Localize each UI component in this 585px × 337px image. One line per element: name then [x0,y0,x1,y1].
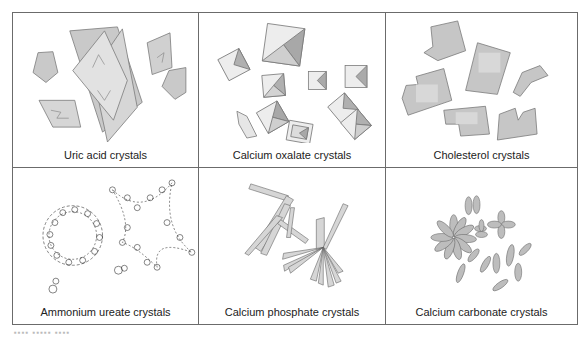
cholesterol-crystals-illustration [386,13,577,143]
caption-calcium-carbonate: Calcium carbonate crystals [386,306,577,318]
panel-uric-acid: Uric acid crystals [13,13,199,168]
ammonium-ureate-crystals-illustration [13,168,198,300]
caption-calcium-oxalate: Calcium oxalate crystals [199,149,385,161]
crystal-figure-grid: Uric acid crystals [12,12,578,325]
caption-calcium-phosphate: Calcium phosphate crystals [199,306,385,318]
panel-cholesterol: Cholesterol crystals [386,13,577,168]
calcium-carbonate-crystals-illustration [386,168,577,300]
panel-ammonium-ureate: Ammonium ureate crystals [13,168,199,324]
calcium-phosphate-crystals-illustration [199,168,385,300]
caption-ammonium-ureate: Ammonium ureate crystals [13,306,198,318]
calcium-oxalate-crystals-illustration [199,13,385,143]
panel-calcium-carbonate: Calcium carbonate crystals [386,168,577,324]
panel-calcium-phosphate: Calcium phosphate crystals [199,168,386,324]
caption-cholesterol: Cholesterol crystals [386,149,577,161]
faded-caption-strip: ▪▪▪▪ ▪▪▪▪▪ ▪▪▪▪ [14,328,70,337]
uric-acid-crystals-illustration [13,13,198,143]
panel-calcium-oxalate: Calcium oxalate crystals [199,13,386,168]
caption-uric-acid: Uric acid crystals [13,149,198,161]
